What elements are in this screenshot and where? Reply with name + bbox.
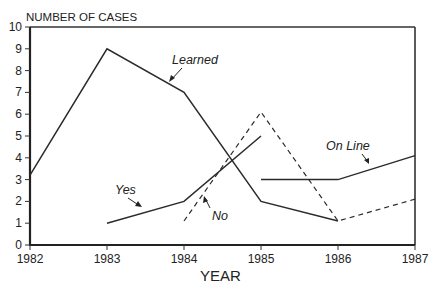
series-line-learned (30, 49, 338, 221)
x-tick-label: 1986 (325, 252, 352, 266)
x-tick-label: 1985 (248, 252, 275, 266)
y-tick-label: 8 (15, 64, 22, 78)
series-line-yes (107, 136, 261, 223)
y-tick-label: 7 (15, 85, 22, 99)
label-no: No (212, 209, 228, 223)
arrow-yes-head (135, 201, 142, 207)
x-tick-label: 1983 (94, 252, 121, 266)
x-tick-label: 1982 (17, 252, 44, 266)
y-tick-label: 1 (15, 216, 22, 230)
x-ticks: 198219831984198519861987 (17, 245, 429, 266)
y-tick-label: 6 (15, 107, 22, 121)
line-chart: 012345678910 198219831984198519861987 NU… (0, 0, 439, 289)
label-yes: Yes (115, 183, 136, 197)
y-tick-label: 10 (9, 20, 23, 34)
x-tick-label: 1987 (402, 252, 429, 266)
series-line-on-line (261, 156, 415, 180)
label-learned: Learned (172, 53, 219, 67)
series-lines (30, 49, 415, 223)
y-tick-label: 4 (15, 151, 22, 165)
y-tick-label: 2 (15, 194, 22, 208)
y-tick-label: 9 (15, 42, 22, 56)
x-tick-label: 1984 (171, 252, 198, 266)
y-tick-label: 0 (15, 238, 22, 252)
x-axis-title: YEAR (200, 267, 241, 284)
label-online: On Line (326, 139, 370, 153)
y-axis-title: NUMBER OF CASES (26, 11, 138, 23)
arrow-online-head (364, 158, 369, 164)
y-tick-label: 5 (15, 129, 22, 143)
y-ticks: 012345678910 (9, 20, 30, 252)
y-tick-label: 3 (15, 173, 22, 187)
